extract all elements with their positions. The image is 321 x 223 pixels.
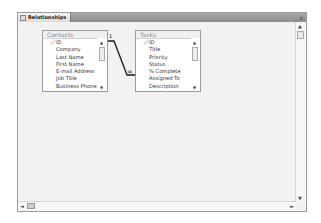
document-tab-bar: Relationships x xyxy=(18,13,306,22)
relationship-one-label: 1 xyxy=(109,33,112,39)
tab-relationships[interactable]: Relationships xyxy=(18,13,71,22)
close-button[interactable]: x xyxy=(299,13,303,22)
scroll-right-arrow-icon[interactable]: ► xyxy=(290,203,294,209)
horizontal-scrollbar[interactable]: ◄ ► xyxy=(18,201,296,211)
scroll-down-arrow-icon[interactable]: ▼ xyxy=(298,195,302,201)
tab-label: Relationships xyxy=(28,13,66,22)
vertical-scroll-thumb[interactable] xyxy=(297,31,304,39)
relationship-many-label: ∞ xyxy=(127,69,133,76)
scroll-left-arrow-icon[interactable]: ◄ xyxy=(20,203,24,209)
relationship-line[interactable] xyxy=(18,22,298,202)
scroll-up-arrow-icon[interactable]: ▲ xyxy=(298,23,302,29)
horizontal-scroll-thumb[interactable] xyxy=(27,203,35,209)
relationships-window: Relationships x Contacts 🔑︎ID Company La… xyxy=(17,12,307,212)
relationships-canvas[interactable]: Contacts 🔑︎ID Company Last Name First Na… xyxy=(18,22,296,202)
vertical-scrollbar[interactable]: ▲ ▼ xyxy=(295,22,306,202)
relationships-icon xyxy=(20,15,26,21)
